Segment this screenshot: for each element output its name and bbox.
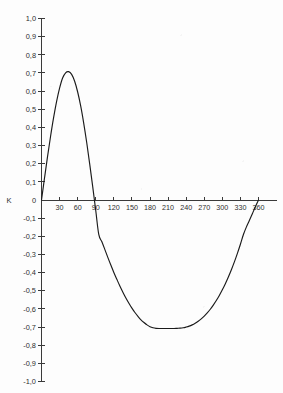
y-axis-tick-label: -0,9: [23, 359, 36, 368]
y-axis-tick-label: 0,6: [26, 87, 36, 96]
x-axis-tick-label: 60: [74, 203, 82, 212]
axis-name-label: K: [6, 196, 11, 205]
y-axis-tick-label: -0,1: [23, 214, 36, 223]
y-axis-tick-label: -0,2: [23, 232, 36, 241]
y-axis-tick-label: -0,3: [23, 250, 36, 259]
y-axis-tick-label: 0,4: [26, 123, 36, 132]
y-axis-tick-label: 0,8: [26, 51, 36, 60]
x-axis-tick-label: 180: [144, 203, 156, 212]
y-axis-tick-label: 1,0: [26, 14, 36, 23]
y-axis-tick-label: 0,7: [26, 69, 36, 78]
axis-name-text: K: [6, 196, 11, 205]
x-axis-tick-label: 300: [216, 203, 228, 212]
x-axis-tick-label: 30: [56, 203, 64, 212]
chart-figure: 1,00,90,80,70,60,50,40,30,20,10-0,1-0,2-…: [0, 0, 283, 393]
x-axis: 306090120150180210240270300330360: [42, 197, 277, 212]
x-axis-tick-label: 150: [126, 203, 138, 212]
y-axis-tick-label: -0,4: [23, 268, 36, 277]
y-axis-tick-label: 0,1: [26, 178, 36, 187]
line-chart: 1,00,90,80,70,60,50,40,30,20,10-0,1-0,2-…: [0, 0, 283, 393]
x-axis-tick-label: 330: [234, 203, 246, 212]
x-axis-tick-label: 210: [162, 203, 174, 212]
y-axis-tick-label: 0,2: [26, 159, 36, 168]
y-axis-tick-label: 0,5: [26, 105, 36, 114]
y-axis-tick-label: -0,7: [23, 323, 36, 332]
y-axis-tick-label: 0,3: [26, 141, 36, 150]
x-axis-tick-label: 240: [180, 203, 192, 212]
x-axis-tick-label: 120: [108, 203, 120, 212]
y-axis-tick-label: -0,8: [23, 341, 36, 350]
x-axis-tick-label: 270: [198, 203, 210, 212]
y-axis-tick-label: -1,0: [23, 377, 36, 386]
y-axis-tick-label: -0,6: [23, 305, 36, 314]
y-axis-tick-label: 0: [32, 196, 36, 205]
y-axis-tick-label: -0,5: [23, 286, 36, 295]
y-axis-tick-label: 0,9: [26, 32, 36, 41]
